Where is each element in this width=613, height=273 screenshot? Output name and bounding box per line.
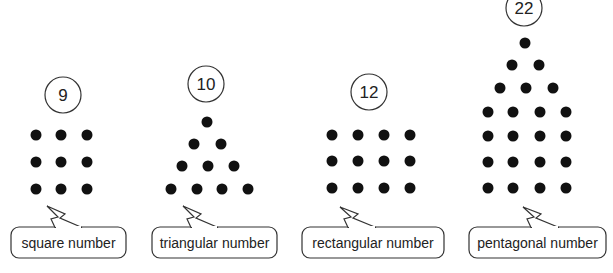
dot (192, 184, 203, 195)
dot (508, 157, 519, 168)
bubble-tail-icon (47, 206, 82, 228)
dot (379, 130, 390, 141)
dot (521, 83, 532, 94)
dot (535, 157, 546, 168)
number-value: 22 (515, 0, 534, 18)
bubble-label: triangular number (160, 235, 270, 251)
number-badge: 22 (506, 0, 542, 26)
dot (353, 183, 364, 194)
dot (189, 139, 200, 150)
dot (379, 183, 390, 194)
dot (535, 183, 546, 194)
bubble-tail-icon (340, 207, 376, 228)
dot (82, 184, 93, 195)
dot (495, 83, 506, 94)
figure-square: 9square number (11, 77, 126, 258)
dot (548, 83, 559, 94)
dot (561, 107, 572, 118)
dot (483, 157, 494, 168)
dot (217, 184, 228, 195)
speech-bubble: square number (11, 206, 126, 258)
dot (508, 183, 519, 194)
dot (203, 161, 214, 172)
dot (229, 161, 240, 172)
dot-pattern (166, 117, 254, 195)
figure-triangular: 10triangular number (152, 66, 277, 258)
dot (535, 107, 546, 118)
dot (327, 156, 338, 167)
speech-bubble: pentagonal number (469, 207, 606, 258)
dot (535, 131, 546, 142)
dot (561, 157, 572, 168)
number-badge: 9 (45, 77, 81, 113)
dot (327, 183, 338, 194)
number-value: 12 (360, 83, 379, 102)
bubble-label: square number (21, 235, 116, 251)
dot (216, 139, 227, 150)
dot (405, 156, 416, 167)
dot (56, 130, 67, 141)
dot (202, 117, 213, 128)
dot-pattern (483, 38, 572, 194)
dot (508, 131, 519, 142)
dot (483, 183, 494, 194)
dot (82, 130, 93, 141)
dot-pattern (31, 130, 93, 195)
dot (520, 38, 531, 49)
bubble-tail-icon (523, 207, 559, 228)
dot (405, 130, 416, 141)
dot (56, 157, 67, 168)
figurate-numbers-diagram: 9square number10triangular number12recta… (0, 0, 613, 273)
dot (561, 183, 572, 194)
dot (483, 131, 494, 142)
bubble-tail-icon (183, 206, 218, 228)
dot (483, 107, 494, 118)
number-value: 9 (58, 86, 67, 105)
speech-bubble: triangular number (152, 206, 277, 258)
dot-pattern (327, 130, 416, 194)
number-badge: 10 (188, 66, 224, 102)
figure-pentagonal: 22pentagonal number (469, 0, 606, 258)
figure-rectangular: 12rectangular number (302, 74, 444, 258)
dot (82, 157, 93, 168)
dot (405, 183, 416, 194)
dot (353, 130, 364, 141)
dot (508, 107, 519, 118)
dot (56, 184, 67, 195)
number-value: 10 (197, 75, 216, 94)
dot (177, 161, 188, 172)
dot (327, 130, 338, 141)
dot (561, 131, 572, 142)
dot (31, 157, 42, 168)
dot (353, 156, 364, 167)
bubble-label: rectangular number (312, 235, 434, 251)
number-badge: 12 (351, 74, 387, 110)
dot (31, 184, 42, 195)
diagram-canvas: 9square number10triangular number12recta… (0, 0, 613, 273)
dot (379, 156, 390, 167)
dot (31, 130, 42, 141)
speech-bubble: rectangular number (302, 207, 444, 258)
dot (507, 60, 518, 71)
dot (534, 60, 545, 71)
dot (243, 184, 254, 195)
bubble-label: pentagonal number (477, 235, 598, 251)
dot (166, 184, 177, 195)
